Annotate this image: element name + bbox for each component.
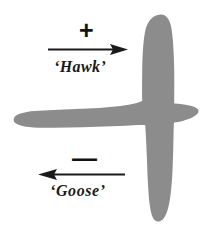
figure-graphic bbox=[0, 0, 218, 235]
figure-container: + ‘Hawk’ — ‘Goose’ bbox=[0, 0, 218, 235]
